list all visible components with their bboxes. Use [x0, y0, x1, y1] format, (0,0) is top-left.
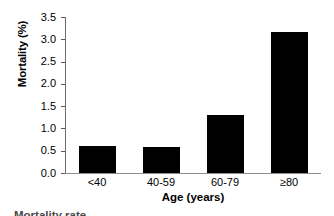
y-tick-label: 3.0: [22, 34, 56, 45]
y-tick-label: 1.5: [22, 101, 56, 112]
bar-ge80: [271, 32, 308, 173]
x-tick-label-ge80: ≥80: [257, 176, 321, 189]
figure-caption: Mortality rate: [14, 209, 334, 216]
y-tick-label: 1.0: [22, 123, 56, 134]
y-tick-label: 0.5: [22, 145, 56, 156]
x-axis-title: Age (years): [65, 191, 321, 204]
y-tick-label: 0.0: [22, 168, 56, 179]
y-tick-label: 2.0: [22, 78, 56, 89]
plot-area: [65, 17, 321, 173]
mortality-by-age-bar-chart: Mortality (%) 3.5 3.0 2.5 2.0 1.5 1.0 0.…: [0, 0, 334, 216]
x-axis-line: [65, 173, 321, 174]
x-tick-label-40-59: 40-59: [129, 176, 193, 189]
bar-40-59: [143, 147, 180, 173]
y-tick-label: 2.5: [22, 56, 56, 67]
y-axis-tick-labels: 3.5 3.0 2.5 2.0 1.5 1.0 0.5 0.0: [22, 0, 56, 216]
bar-lt40: [79, 146, 116, 173]
y-tick-label: 3.5: [22, 12, 56, 23]
bar-60-79: [207, 115, 244, 173]
x-tick-label-lt40: <40: [65, 176, 129, 189]
x-tick-label-60-79: 60-79: [193, 176, 257, 189]
x-axis-tick-labels: <40 40-59 60-79 ≥80: [65, 176, 321, 190]
